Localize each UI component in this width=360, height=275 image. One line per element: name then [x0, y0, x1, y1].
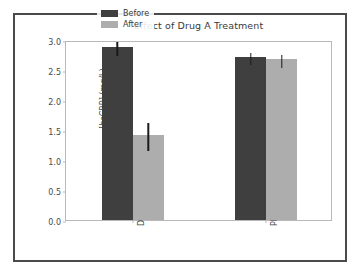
bar-placebo-after [266, 59, 297, 220]
error-bar-placebo-after [281, 55, 282, 68]
error-bar-drug-before [117, 42, 118, 56]
y-tick-mark [63, 72, 66, 73]
y-tick-mark [63, 132, 66, 133]
y-tick-mark [63, 42, 66, 43]
bar-placebo-before [235, 57, 266, 220]
legend-item-before[interactable]: Before [101, 8, 149, 19]
y-tick-mark [63, 102, 66, 103]
legend-label: After [123, 20, 142, 29]
legend-swatch-after [101, 21, 118, 28]
plot-area: [hsCRP] (mg/L) 0.00.51.01.52.02.53.0 Dru… [65, 41, 332, 221]
legend-label: Before [123, 9, 149, 18]
legend: BeforeAfter [97, 5, 154, 33]
error-bar-placebo-before [250, 53, 251, 65]
x-tick-mark [266, 220, 267, 223]
error-bar-drug-after [148, 123, 149, 151]
figure: Effect of Drug A Treatment [hsCRP] (mg/L… [0, 0, 360, 275]
y-tick-mark [63, 222, 66, 223]
legend-swatch-before [101, 10, 118, 17]
y-tick-mark [63, 192, 66, 193]
x-tick-mark [132, 220, 133, 223]
legend-item-after[interactable]: After [101, 19, 149, 30]
bar-drug-before [102, 47, 133, 220]
y-tick-mark [63, 162, 66, 163]
